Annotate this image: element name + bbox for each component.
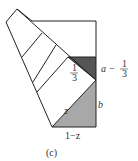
b-label: b bbox=[98, 99, 103, 110]
frac-den: 3 bbox=[122, 68, 127, 79]
figure: a − 1 3 1 3 z b 1−z (c) bbox=[0, 0, 138, 161]
inner-frac-den: 3 bbox=[72, 72, 77, 83]
z-label: z bbox=[63, 105, 68, 116]
caption: (c) bbox=[46, 147, 57, 159]
one-minus-z-label: 1−z bbox=[65, 130, 81, 141]
geometry-diagram: a − 1 3 1 3 z b 1−z (c) bbox=[0, 0, 138, 161]
a-minus-label: a − bbox=[101, 63, 115, 74]
